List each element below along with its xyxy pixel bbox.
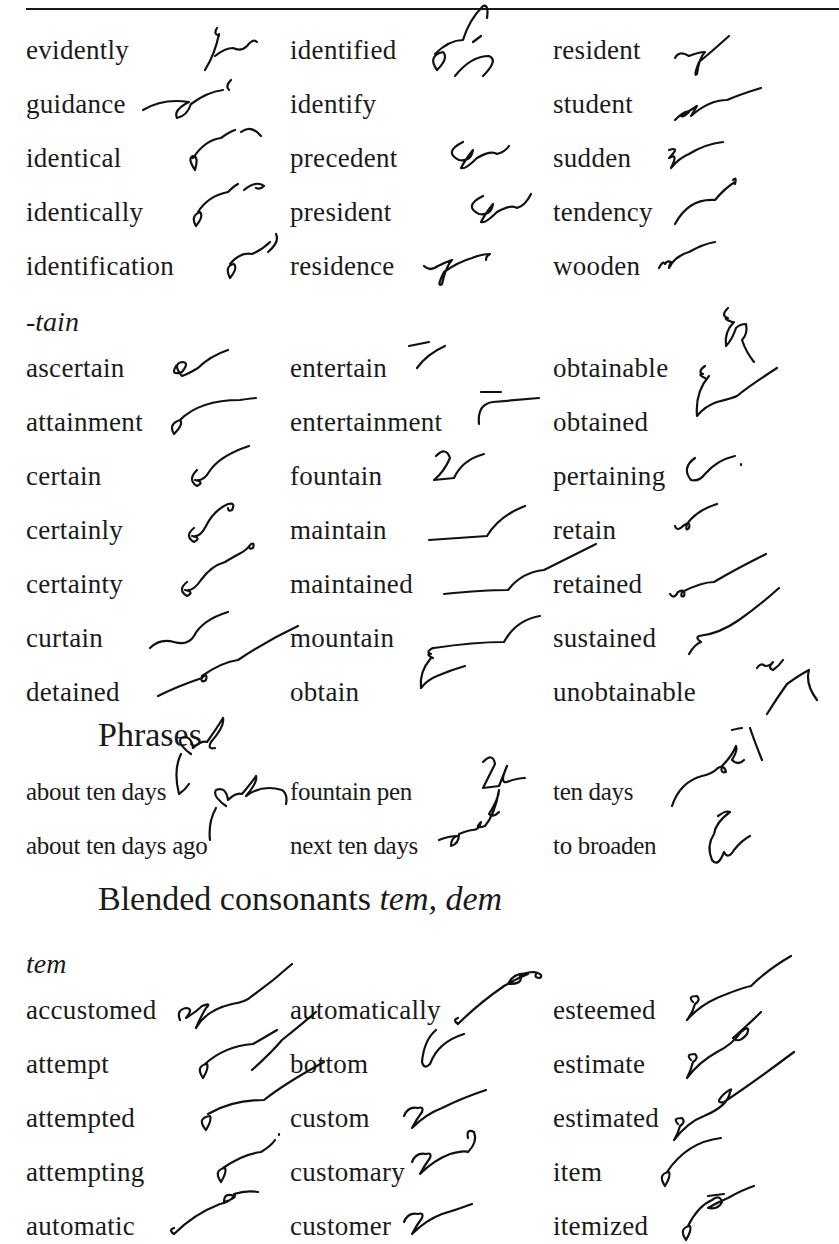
phrase: about ten days bbox=[26, 778, 166, 806]
word: estimate bbox=[553, 1049, 645, 1080]
word: precedent bbox=[290, 143, 398, 174]
word: sudden bbox=[553, 143, 631, 174]
shorthand-outline-icon bbox=[420, 1022, 500, 1082]
word: obtain bbox=[290, 677, 359, 708]
word: identical bbox=[26, 143, 122, 174]
word: certainty bbox=[26, 569, 123, 600]
shorthand-outline-icon bbox=[678, 1178, 778, 1244]
word: wooden bbox=[553, 251, 640, 282]
word: certainly bbox=[26, 515, 123, 546]
word: fountain bbox=[290, 461, 382, 492]
shorthand-outline-icon bbox=[465, 180, 565, 240]
word: attempting bbox=[26, 1157, 144, 1188]
shorthand-outline-icon bbox=[410, 1128, 520, 1188]
shorthand-outline-icon bbox=[671, 30, 751, 80]
list-row: identification residence wooden bbox=[0, 242, 839, 296]
word: automatic bbox=[26, 1211, 135, 1242]
word: curtain bbox=[26, 623, 103, 654]
phrase: fountain pen bbox=[290, 778, 412, 806]
word: tendency bbox=[553, 197, 653, 228]
phrase: ten days bbox=[553, 778, 633, 806]
section-heading-blended-consonants: Blended consonants tem, dem bbox=[98, 880, 502, 918]
shorthand-outline-icon bbox=[211, 24, 271, 84]
heading-text: Blended consonants bbox=[98, 880, 379, 917]
list-row: attainment entertainment obtained bbox=[0, 398, 839, 452]
word: certain bbox=[26, 461, 102, 492]
word: ascertain bbox=[26, 353, 125, 384]
word: estimated bbox=[553, 1103, 659, 1134]
shorthand-outline-icon bbox=[402, 1188, 502, 1244]
shorthand-outline-icon bbox=[166, 172, 296, 232]
word: retained bbox=[553, 569, 642, 600]
phrase: next ten days bbox=[290, 832, 418, 860]
word: detained bbox=[26, 677, 120, 708]
word: identification bbox=[26, 251, 174, 282]
shorthand-outline-icon bbox=[475, 384, 555, 434]
word: resident bbox=[553, 35, 641, 66]
word: attempt bbox=[26, 1049, 109, 1080]
shorthand-outline-icon bbox=[671, 172, 771, 232]
word: attempted bbox=[26, 1103, 135, 1134]
shorthand-outline-icon bbox=[683, 448, 763, 498]
list-row: identically president tendency bbox=[0, 188, 839, 242]
word: obtained bbox=[553, 407, 648, 438]
word: student bbox=[553, 89, 633, 120]
shorthand-outline-icon bbox=[161, 120, 291, 180]
list-row: detained obtain unobtainable bbox=[0, 668, 839, 722]
shorthand-outline-icon bbox=[671, 78, 771, 128]
phrase: about ten days ago bbox=[26, 832, 207, 860]
word: pertaining bbox=[553, 461, 665, 492]
word: identified bbox=[290, 35, 396, 66]
shorthand-outline-icon bbox=[437, 778, 527, 858]
shorthand-outline-icon bbox=[445, 132, 545, 182]
word: sustained bbox=[553, 623, 656, 654]
list-row: about ten days ago next ten days to broa… bbox=[0, 820, 839, 874]
word: customer bbox=[290, 1211, 391, 1242]
word: unobtainable bbox=[553, 677, 696, 708]
word: president bbox=[290, 197, 392, 228]
shorthand-outline-icon bbox=[405, 334, 465, 374]
word: maintain bbox=[290, 515, 387, 546]
word: entertainment bbox=[290, 407, 442, 438]
word: evidently bbox=[26, 35, 129, 66]
shorthand-outline-icon bbox=[166, 336, 246, 386]
shorthand-outline-icon bbox=[166, 384, 286, 444]
word: esteemed bbox=[553, 995, 656, 1026]
shorthand-outline-icon bbox=[653, 238, 733, 288]
word: entertain bbox=[290, 353, 387, 384]
shorthand-outline-icon bbox=[668, 726, 798, 806]
word: maintained bbox=[290, 569, 413, 600]
shorthand-outline-icon bbox=[430, 444, 500, 494]
word: accustomed bbox=[26, 995, 156, 1026]
word: obtainable bbox=[553, 353, 668, 384]
word: identically bbox=[26, 197, 143, 228]
section-label-tain: -tain bbox=[26, 306, 79, 338]
shorthand-outline-icon bbox=[673, 496, 753, 546]
list-row: automatic customer itemized bbox=[0, 1202, 839, 1244]
phrase: to broaden bbox=[553, 832, 656, 860]
shorthand-outline-icon bbox=[425, 4, 515, 84]
shorthand-outline-icon bbox=[181, 436, 271, 496]
shorthand-outline-icon bbox=[171, 534, 301, 604]
shorthand-outline-icon bbox=[708, 810, 778, 890]
word: identify bbox=[290, 89, 376, 120]
shorthand-outline-icon bbox=[420, 244, 520, 304]
shorthand-outline-icon bbox=[693, 354, 823, 434]
heading-italic-text: tem, dem bbox=[379, 880, 502, 917]
word: itemized bbox=[553, 1211, 648, 1242]
word: item bbox=[553, 1157, 602, 1188]
shorthand-outline-icon bbox=[415, 644, 485, 704]
shorthand-outline-icon bbox=[668, 1040, 818, 1140]
list-row: guidance identify student bbox=[0, 80, 839, 134]
word: guidance bbox=[26, 89, 126, 120]
word: residence bbox=[290, 251, 395, 282]
word: attainment bbox=[26, 407, 143, 438]
list-row: evidently identified resident bbox=[0, 26, 839, 80]
shorthand-outline-icon bbox=[450, 966, 570, 1026]
section-label-tem: tem bbox=[26, 948, 66, 980]
